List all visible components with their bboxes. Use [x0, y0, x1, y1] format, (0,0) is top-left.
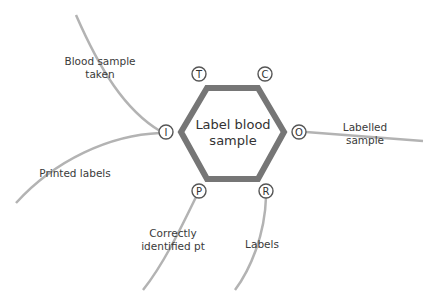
center-label-line1: Label blood	[188, 117, 278, 133]
node-R[interactable]: R	[259, 184, 273, 198]
label-line: identified pt	[128, 240, 218, 253]
svg-text:I: I	[165, 127, 168, 138]
label-printed-labels: Printed labels	[30, 167, 120, 180]
label-blood-sample-taken: Blood sample taken	[55, 55, 145, 81]
node-C[interactable]: C	[258, 67, 272, 81]
node-P[interactable]: P	[192, 184, 206, 198]
node-O[interactable]: O	[292, 125, 306, 139]
label-correctly-identified-pt: Correctly identified pt	[128, 227, 218, 253]
diagram-svg: T C I O P R	[0, 0, 438, 307]
node-I[interactable]: I	[159, 125, 173, 139]
label-labelled-sample: Labelled sample	[330, 121, 400, 147]
svg-text:T: T	[195, 69, 203, 80]
label-line: Labels	[237, 238, 287, 251]
label-labels: Labels	[237, 238, 287, 251]
svg-text:C: C	[262, 69, 269, 80]
diagram-canvas: T C I O P R Label blood sample Blood sam…	[0, 0, 438, 307]
label-line: Correctly	[128, 227, 218, 240]
label-line: Labelled	[330, 121, 400, 134]
svg-text:O: O	[295, 127, 303, 138]
node-T[interactable]: T	[192, 67, 206, 81]
label-line: Printed labels	[30, 167, 120, 180]
label-line: sample	[330, 134, 400, 147]
center-label-line2: sample	[188, 133, 278, 149]
label-line: Blood sample	[55, 55, 145, 68]
svg-text:R: R	[263, 186, 270, 197]
label-line: taken	[55, 68, 145, 81]
center-label: Label blood sample	[188, 117, 278, 149]
svg-text:P: P	[196, 186, 202, 197]
